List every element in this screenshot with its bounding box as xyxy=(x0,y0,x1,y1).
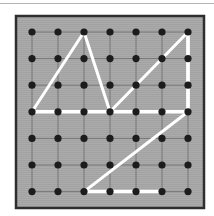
peg xyxy=(158,135,165,142)
peg xyxy=(184,135,191,142)
peg xyxy=(106,55,113,62)
peg xyxy=(106,135,113,142)
peg xyxy=(28,55,35,62)
peg xyxy=(106,161,113,168)
peg xyxy=(80,55,87,62)
peg xyxy=(132,108,139,115)
peg xyxy=(184,161,191,168)
peg xyxy=(158,82,165,89)
peg xyxy=(132,82,139,89)
peg xyxy=(184,55,191,62)
peg xyxy=(80,108,87,115)
peg xyxy=(132,28,139,35)
peg xyxy=(28,82,35,89)
peg xyxy=(106,28,113,35)
peg xyxy=(54,108,61,115)
peg xyxy=(54,188,61,195)
peg xyxy=(54,135,61,142)
peg xyxy=(132,55,139,62)
peg xyxy=(80,135,87,142)
peg xyxy=(106,188,113,195)
peg xyxy=(28,161,35,168)
peg xyxy=(54,55,61,62)
geoboard xyxy=(0,0,214,216)
peg xyxy=(158,188,165,195)
peg xyxy=(80,161,87,168)
peg xyxy=(106,108,113,115)
peg xyxy=(132,161,139,168)
peg xyxy=(158,55,165,62)
peg xyxy=(132,188,139,195)
peg xyxy=(54,28,61,35)
peg xyxy=(158,28,165,35)
peg xyxy=(158,161,165,168)
peg xyxy=(80,28,87,35)
peg xyxy=(54,82,61,89)
peg xyxy=(28,28,35,35)
peg xyxy=(184,188,191,195)
peg xyxy=(28,188,35,195)
peg xyxy=(184,28,191,35)
peg xyxy=(132,135,139,142)
peg xyxy=(54,161,61,168)
peg xyxy=(158,108,165,115)
peg xyxy=(80,82,87,89)
peg xyxy=(184,82,191,89)
peg xyxy=(28,135,35,142)
peg xyxy=(28,108,35,115)
peg xyxy=(80,188,87,195)
peg xyxy=(106,82,113,89)
peg xyxy=(184,108,191,115)
